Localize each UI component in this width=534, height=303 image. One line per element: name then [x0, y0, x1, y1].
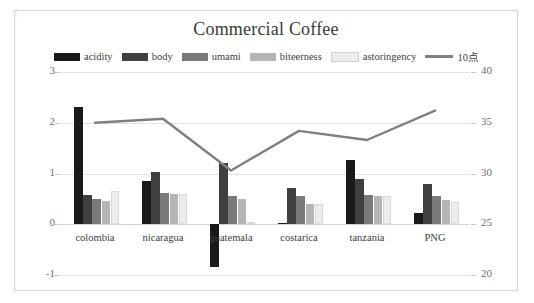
line-path-10ten [95, 111, 435, 171]
bar-umami-colombia [92, 199, 101, 224]
bar-biteerness-PNG [442, 200, 451, 224]
legend-swatch-marker [122, 53, 148, 61]
bar-body-guatemala [219, 163, 228, 224]
legend-swatch-marker [331, 52, 359, 62]
bar-body-tanzania [355, 179, 364, 225]
y-axis-left-tick-label: 0 [21, 216, 55, 228]
chart-legend: aciditybodyumamibiteernessastoringency10… [15, 49, 517, 64]
legend-label: umami [212, 51, 241, 62]
legend-swatch-marker [54, 53, 80, 61]
y-axis-left-tick-label: 3 [21, 64, 55, 76]
bar-astoringency-PNG [451, 202, 460, 224]
legend-label: astoringency [363, 51, 417, 62]
bar-biteerness-guatemala [238, 199, 247, 224]
bar-astoringency-tanzania [383, 196, 392, 224]
bar-acidity-guatemala [210, 224, 219, 267]
y-axis-left-tick [55, 123, 60, 124]
bar-umami-guatemala [228, 196, 237, 224]
gridline [61, 224, 469, 225]
chart-title: Commercial Coffee [15, 19, 517, 40]
y-axis-left-tick-label: 2 [21, 115, 55, 127]
y-axis-right-tick [471, 224, 476, 225]
chart-container: Commercial Coffee aciditybodyumamibiteer… [14, 10, 518, 291]
bar-astoringency-nicaragua [179, 194, 188, 224]
y-axis-left-tick-label: -1 [21, 267, 55, 279]
legend-item-acidity: acidity [54, 51, 113, 62]
bar-umami-PNG [432, 196, 441, 224]
legend-label: 10点 [457, 49, 478, 64]
y-axis-left-tick [55, 72, 60, 73]
y-axis-left-tick [55, 224, 60, 225]
bar-astoringency-costarica [315, 204, 324, 224]
y-axis-left-tick [55, 275, 60, 276]
scan-artifact [15, 11, 185, 17]
legend-swatch-marker [250, 53, 276, 61]
y-axis-left-tick-label: 1 [21, 166, 55, 178]
bar-body-nicaragua [151, 172, 160, 224]
y-axis-right-tick-label: 35 [481, 115, 521, 127]
y-axis-right-tick-label: 40 [481, 64, 521, 76]
x-axis-category-label: colombia [61, 232, 129, 243]
bar-umami-tanzania [364, 195, 373, 224]
gridline [61, 72, 469, 73]
x-axis-category-label: costarica [265, 232, 333, 243]
bar-body-colombia [83, 195, 92, 224]
legend-swatch-marker [182, 53, 208, 61]
bar-astoringency-guatemala [247, 222, 256, 225]
legend-item-body: body [122, 51, 173, 62]
legend-item-biteerness: biteerness [250, 51, 322, 62]
x-axis-category-label: PNG [401, 232, 469, 243]
bar-biteerness-colombia [102, 201, 111, 224]
bar-astoringency-colombia [111, 191, 120, 224]
legend-label: biteerness [280, 51, 322, 62]
bar-acidity-PNG [414, 213, 423, 224]
y-axis-left-tick [55, 174, 60, 175]
y-axis-right-tick [471, 174, 476, 175]
x-axis-category-label: nicaragua [129, 232, 197, 243]
gridline [61, 275, 469, 276]
bar-acidity-colombia [74, 107, 83, 225]
legend-item-astoringency: astoringency [331, 51, 417, 62]
plot-area: 3210-14035302520colombianicaraguaguatema… [61, 72, 469, 275]
bar-biteerness-tanzania [374, 196, 383, 224]
bar-acidity-tanzania [346, 160, 355, 224]
x-axis-category-label: tanzania [333, 232, 401, 243]
y-axis-right-tick-label: 25 [481, 216, 521, 228]
x-axis-category-label: guatemala [197, 232, 265, 243]
bar-acidity-costarica [278, 223, 287, 225]
legend-item-umami: umami [182, 51, 241, 62]
y-axis-right-tick-label: 30 [481, 166, 521, 178]
bar-body-PNG [423, 184, 432, 225]
legend-line-marker [425, 55, 453, 58]
gridline [61, 174, 469, 175]
y-axis-right-tick [471, 72, 476, 73]
y-axis-right-tick [471, 275, 476, 276]
y-axis-right-tick-label: 20 [481, 267, 521, 279]
legend-item-10点: 10点 [425, 49, 478, 64]
bar-umami-nicaragua [160, 193, 169, 224]
bar-biteerness-nicaragua [170, 194, 179, 224]
gridline [61, 123, 469, 124]
bar-acidity-nicaragua [142, 181, 151, 224]
legend-label: acidity [84, 51, 113, 62]
bar-biteerness-costarica [306, 204, 315, 224]
legend-label: body [152, 51, 173, 62]
bar-umami-costarica [296, 196, 305, 224]
y-axis-right-tick [471, 123, 476, 124]
bar-body-costarica [287, 188, 296, 225]
